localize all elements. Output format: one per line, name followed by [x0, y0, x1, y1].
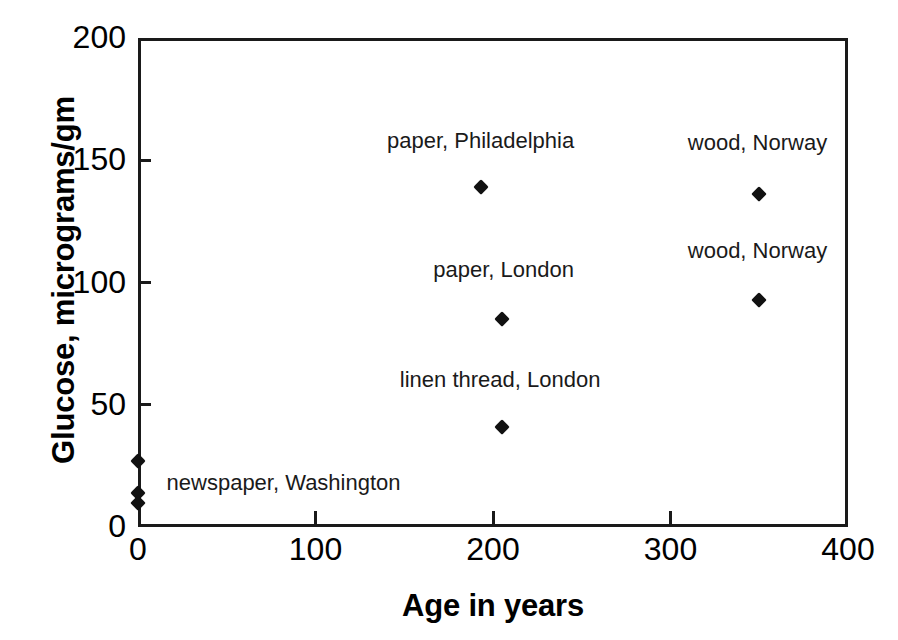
x-tick-label-300: 300	[601, 533, 741, 565]
y-tick-150	[138, 159, 151, 162]
point-annotation: paper, London	[433, 258, 574, 282]
point-annotation: wood, Norway	[688, 131, 827, 155]
x-tick-300	[669, 511, 672, 524]
x-tick-label-200: 200	[423, 533, 563, 565]
point-annotation: paper, Philadelphia	[387, 129, 574, 153]
point-annotation: wood, Norway	[688, 239, 827, 263]
x-axis-title: Age in years	[138, 588, 848, 624]
point-annotation: newspaper, Washington	[167, 471, 401, 495]
x-tick-label-100: 100	[246, 533, 386, 565]
y-tick-50	[138, 403, 151, 406]
y-tick-label-100: 100	[6, 266, 126, 298]
point-annotation: linen thread, London	[400, 368, 601, 392]
y-tick-label-200: 200	[6, 21, 126, 53]
scatter-chart-figure: Glucose, micrograms/gm 050100150200 0100…	[0, 0, 898, 640]
plot-area	[138, 38, 848, 527]
x-tick-label-0: 0	[68, 533, 208, 565]
y-tick-label-50: 50	[6, 388, 126, 420]
x-tick-label-400: 400	[778, 533, 898, 565]
y-tick-100	[138, 281, 151, 284]
x-tick-200	[492, 511, 495, 524]
y-tick-label-150: 150	[6, 143, 126, 175]
x-tick-100	[314, 511, 317, 524]
